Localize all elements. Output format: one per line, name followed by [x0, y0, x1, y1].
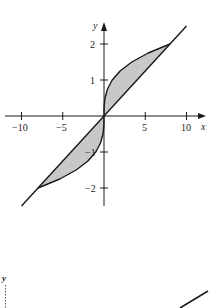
figure: x −10 −5 5 10 y 2 1 −1 −2 y	[0, 0, 216, 308]
x-axis-label: x	[200, 121, 206, 132]
y-axis-label: y	[92, 20, 98, 31]
y-axis-arrow-icon	[101, 22, 107, 31]
x-tick-label: −10	[12, 122, 28, 133]
x-tick-label: 10	[181, 122, 191, 133]
y-tick-label: −2	[85, 183, 96, 194]
y-tick-label: 2	[90, 39, 95, 50]
x-tick-label: −5	[56, 122, 67, 133]
bottom-line-curve	[180, 291, 208, 308]
bottom-y-axis-label: y	[1, 273, 7, 283]
y-tick-label: −1	[85, 147, 96, 158]
x-axis-arrow-icon	[198, 113, 206, 119]
x-tick-label: 5	[142, 122, 147, 133]
y-tick-label: 1	[90, 75, 95, 86]
